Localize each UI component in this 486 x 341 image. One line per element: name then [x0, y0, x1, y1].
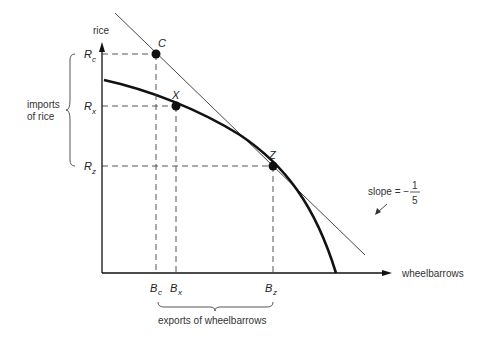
point-z-label: Z: [268, 149, 277, 161]
x-tick-bz: B z: [265, 282, 277, 297]
svg-text:R: R: [84, 100, 92, 112]
svg-text:c: c: [92, 55, 96, 64]
x-tick-bc: B c: [150, 282, 162, 297]
svg-text:x: x: [177, 288, 183, 297]
svg-text:z: z: [272, 288, 277, 297]
imports-brace-icon: [66, 54, 75, 166]
y-tick-rx: R x: [84, 100, 97, 116]
svg-text:R: R: [84, 160, 92, 172]
production-possibility-curve: [104, 80, 336, 273]
svg-text:B: B: [170, 282, 177, 294]
point-z: [269, 162, 278, 171]
svg-text:B: B: [265, 282, 272, 294]
svg-text:z: z: [91, 167, 96, 176]
slope-pointer-arrowhead-icon: [375, 208, 381, 215]
x-axis-arrow-icon: [382, 270, 392, 276]
svg-text:R: R: [84, 48, 92, 60]
imports-label-line1: imports: [27, 99, 60, 110]
svg-text:c: c: [158, 288, 162, 297]
imports-label-line2: of rice: [27, 111, 55, 122]
y-axis-arrow-icon: [99, 42, 105, 52]
y-tick-rc: R c: [84, 48, 96, 64]
point-x: [172, 102, 181, 111]
point-x-label: X: [171, 89, 180, 101]
svg-text:slope = −: slope = −: [368, 186, 409, 197]
y-tick-rz: R z: [84, 160, 96, 176]
svg-text:5: 5: [412, 195, 418, 206]
y-axis-label: rice: [93, 25, 110, 36]
x-tick-bx: B x: [170, 282, 183, 297]
slope-annotation: slope = − 1 5: [368, 180, 420, 206]
trade-diagram: C X Z rice wheelbarrows R c R x R z B c …: [0, 0, 486, 341]
svg-text:1: 1: [412, 180, 418, 191]
x-axis-label: wheelbarrows: [401, 268, 464, 279]
svg-text:B: B: [150, 282, 157, 294]
svg-text:x: x: [91, 107, 97, 116]
point-c-label: C: [158, 37, 166, 49]
point-c: [152, 50, 161, 59]
exports-label: exports of wheelbarrows: [158, 315, 266, 326]
exports-brace-icon: [158, 302, 273, 311]
